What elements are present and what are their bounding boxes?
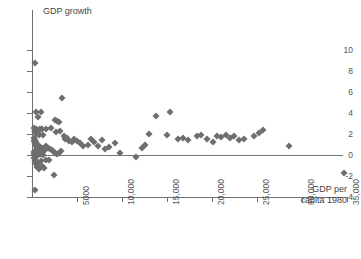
y-tick-label: 0 xyxy=(331,151,353,160)
y-axis-line xyxy=(32,10,33,197)
y-tick xyxy=(27,92,32,93)
x-tick-label: 5000 xyxy=(81,186,91,205)
y-tick xyxy=(27,50,32,51)
y-tick-label: 8 xyxy=(331,67,353,76)
data-point xyxy=(209,139,216,146)
x-tick-label: 35,000 xyxy=(351,179,361,205)
x-axis-line xyxy=(32,197,343,198)
data-point xyxy=(184,137,191,144)
x-tick xyxy=(122,197,123,202)
zero-reference-line xyxy=(32,155,343,156)
x-tick xyxy=(77,197,78,202)
data-point xyxy=(145,130,152,137)
y-tick xyxy=(27,134,32,135)
x-tick-label: 10,000 xyxy=(126,179,136,205)
data-point xyxy=(260,126,267,133)
data-point xyxy=(50,171,57,178)
data-point xyxy=(59,95,66,102)
x-tick xyxy=(212,197,213,202)
y-tick-label: 4 xyxy=(331,109,353,118)
y-tick-label: 10 xyxy=(331,46,353,55)
data-point xyxy=(142,141,149,148)
y-tick xyxy=(27,113,32,114)
data-point xyxy=(55,119,62,126)
x-tick-label: 25,000 xyxy=(261,179,271,205)
y-tick-label: -4 xyxy=(331,193,353,202)
data-point xyxy=(163,132,170,139)
y-tick-label: 2 xyxy=(331,130,353,139)
x-tick-label: 20,000 xyxy=(216,179,226,205)
data-point xyxy=(285,142,292,149)
y-tick xyxy=(27,71,32,72)
x-tick xyxy=(167,197,168,202)
data-point xyxy=(241,136,248,143)
x-tick-label: 15,000 xyxy=(171,179,181,205)
x-tick xyxy=(347,197,348,202)
x-tick xyxy=(257,197,258,202)
data-point xyxy=(153,113,160,120)
data-point xyxy=(166,108,173,115)
y-axis-title: GDP growth xyxy=(43,6,92,17)
y-tick-label: 6 xyxy=(331,88,353,97)
x-tick xyxy=(302,197,303,202)
data-point xyxy=(99,137,106,144)
y-tick xyxy=(27,197,32,198)
x-tick-label: 30,000 xyxy=(306,179,316,205)
y-tick xyxy=(27,176,32,177)
